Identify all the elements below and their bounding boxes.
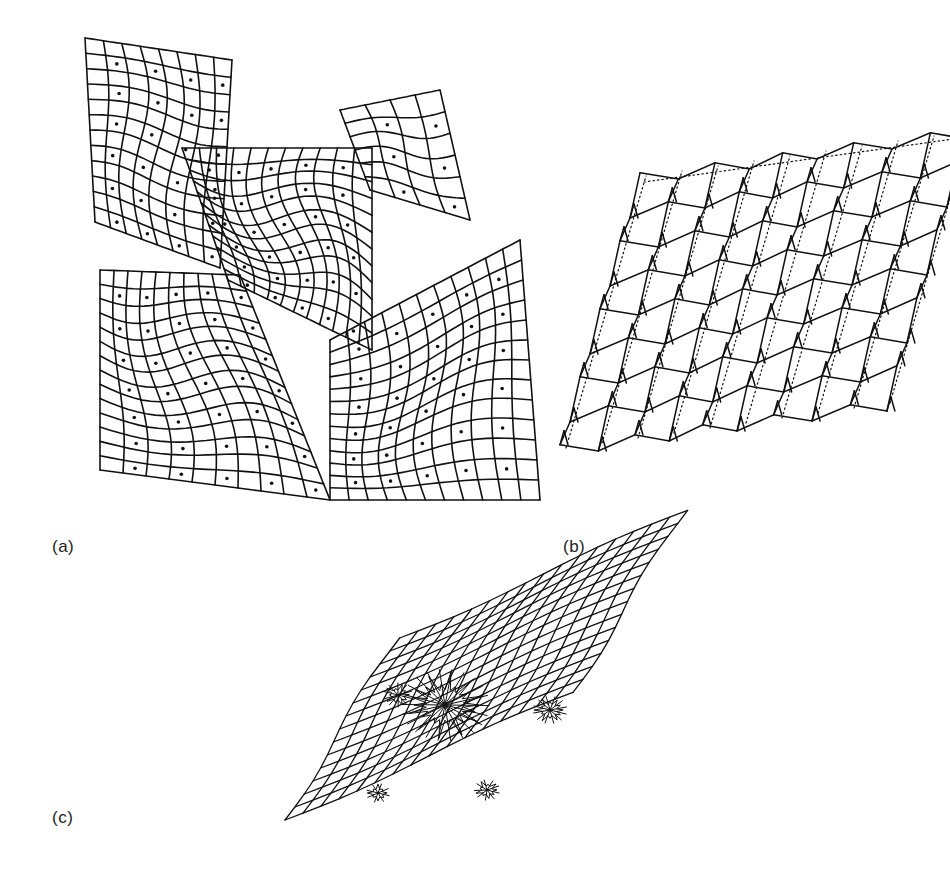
- panel-c: [0, 0, 950, 883]
- panel-label-c: (c): [52, 808, 73, 828]
- distortion-cluster: [384, 683, 412, 707]
- panel-label-a: (a): [52, 537, 74, 557]
- distortion-cluster: [367, 784, 389, 802]
- clustered-mesh-c: [0, 0, 950, 883]
- mesh-grid-c: [285, 510, 688, 820]
- panel-label-b: (b): [563, 537, 585, 557]
- distortion-cluster: [534, 697, 567, 724]
- distortion-cluster: [474, 780, 499, 800]
